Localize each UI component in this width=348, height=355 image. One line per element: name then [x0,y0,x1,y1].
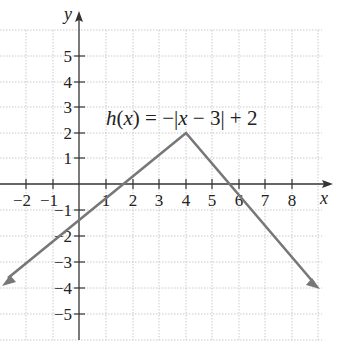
equation-label: h(x) = −|x − 3| + 2 [106,106,257,130]
x-tick-label: 4 [182,191,191,210]
y-tick-label: 1 [64,149,73,168]
x-tick-label: 3 [155,191,164,210]
x-tick-label: −2 [13,191,31,210]
y-tick-label: 2 [64,124,73,143]
y-tick-label: −5 [54,305,72,324]
x-tick-label: 5 [208,191,217,210]
y-tick-label: −4 [54,279,73,298]
grid [0,30,322,340]
y-tick-label: 5 [64,47,73,66]
y-axis [75,11,83,340]
y-axis-label: y [62,4,72,24]
y-tick-label: −3 [54,253,72,272]
x-axis-label: x [319,188,328,208]
x-axis [0,180,333,188]
y-tick-label: 3 [64,98,73,117]
x-tick-label: 7 [261,191,270,210]
y-tick-label: 4 [64,73,73,92]
graph-figure: −2 −1 1 2 3 4 5 6 7 8 5 4 3 2 1 −1 −2 −3… [0,0,348,355]
x-tick-label: 2 [129,191,138,210]
y-tick-label: −1 [54,201,72,220]
y-tick-label: −2 [54,227,72,246]
x-tick-label: 8 [288,191,297,210]
y-tick-labels: 5 4 3 2 1 −1 −2 −3 −4 −5 [54,47,73,324]
left-arrow-icon [2,275,16,286]
